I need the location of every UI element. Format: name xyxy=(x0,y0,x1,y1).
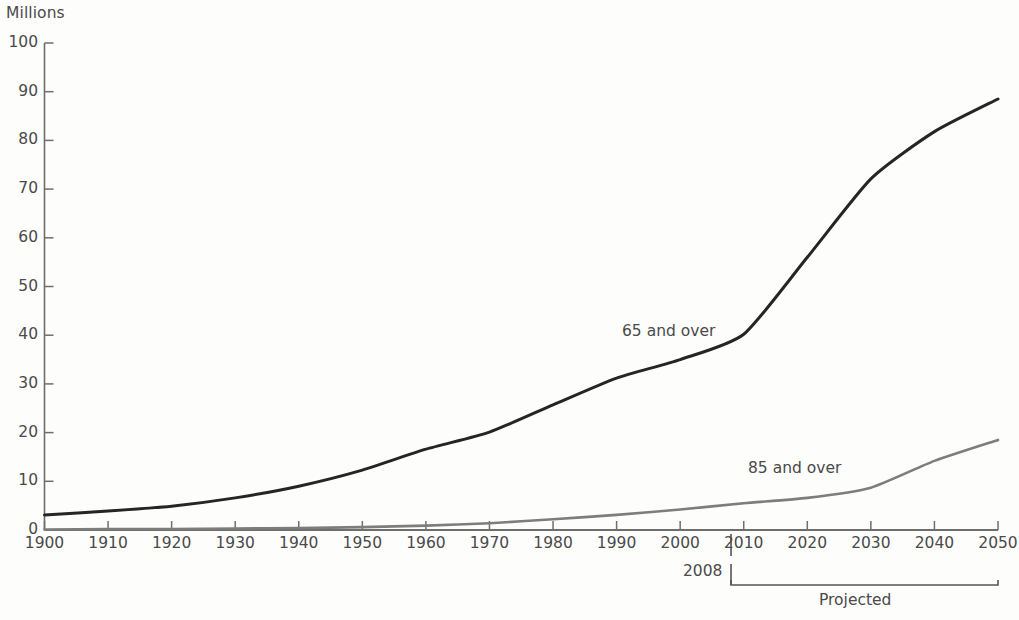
chart-plot-area xyxy=(0,0,1019,620)
x-axis-tick-label: 1940 xyxy=(267,534,331,552)
series-label-65-and-over: 65 and over xyxy=(622,322,715,340)
chart-figure: Millions 1009080706050403020100 19001910… xyxy=(0,0,1019,620)
series-label-85-and-over: 85 and over xyxy=(748,459,841,477)
x-axis-tick-label: 1930 xyxy=(203,534,267,552)
y-axis-tick-label: 30 xyxy=(0,374,38,392)
x-axis-tick-label: 1900 xyxy=(13,534,77,552)
series-lines-group xyxy=(45,99,999,530)
x-axis-tick-label: 2020 xyxy=(775,534,839,552)
y-axis-tick-label: 50 xyxy=(0,277,38,295)
x-axis-tick-label: 1970 xyxy=(457,534,521,552)
x-axis-tick-label: 1920 xyxy=(140,534,204,552)
x-axis-tick-label: 2000 xyxy=(648,534,712,552)
y-axis-tick-label: 90 xyxy=(0,82,38,100)
y-axis-tick-label: 70 xyxy=(0,179,38,197)
y-axis-tick-label: 100 xyxy=(0,33,38,51)
y-axis-tick-label: 80 xyxy=(0,130,38,148)
x-axis-tick-label: 1980 xyxy=(521,534,585,552)
x-axis-tick-label: 1990 xyxy=(585,534,649,552)
series-line-65-and-over xyxy=(45,99,999,515)
x-axis-tick-label: 2050 xyxy=(966,534,1019,552)
annotation-label-projected: Projected xyxy=(819,591,891,609)
y-axis-tick-label: 40 xyxy=(0,325,38,343)
projected-bracket xyxy=(731,580,998,585)
axes-group xyxy=(45,43,999,530)
x-axis-tick-label: 1910 xyxy=(76,534,140,552)
y-axis-tick-label: 10 xyxy=(0,471,38,489)
x-axis-tick-label: 1950 xyxy=(330,534,394,552)
y-axis-tick-label: 20 xyxy=(0,423,38,441)
series-line-85-and-over xyxy=(45,440,999,530)
x-axis-tick-label: 2040 xyxy=(902,534,966,552)
x-axis-tick-label: 2010 xyxy=(712,534,776,552)
y-axis-tick-label: 60 xyxy=(0,228,38,246)
annotation-label-2008: 2008 xyxy=(683,562,722,580)
x-axis-tick-label: 1960 xyxy=(394,534,458,552)
x-axis-tick-label: 2030 xyxy=(839,534,903,552)
